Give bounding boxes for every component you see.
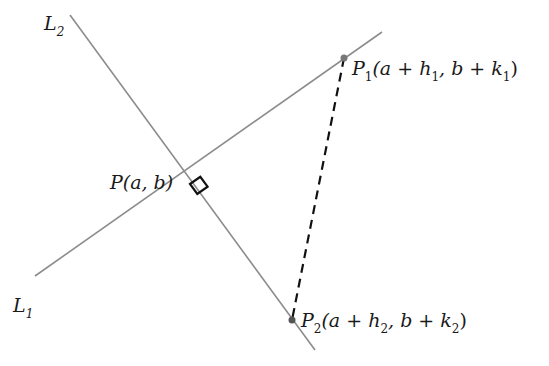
label-point-p2: P2(a + h2, b + k2) bbox=[300, 309, 467, 336]
line-l1 bbox=[35, 32, 382, 276]
label-l1: L1 bbox=[12, 294, 33, 321]
label-point-p: P(a, b) bbox=[109, 171, 173, 193]
point-p2 bbox=[289, 317, 296, 324]
label-l2: L2 bbox=[43, 12, 64, 39]
diagram-canvas: L2 L1 P(a, b) P1(a + h1, b + k1) P2(a + … bbox=[0, 0, 549, 366]
label-point-p1: P1(a + h1, b + k1) bbox=[351, 57, 518, 84]
point-p1 bbox=[341, 55, 348, 62]
dashed-segment-p1-p2 bbox=[292, 58, 344, 320]
